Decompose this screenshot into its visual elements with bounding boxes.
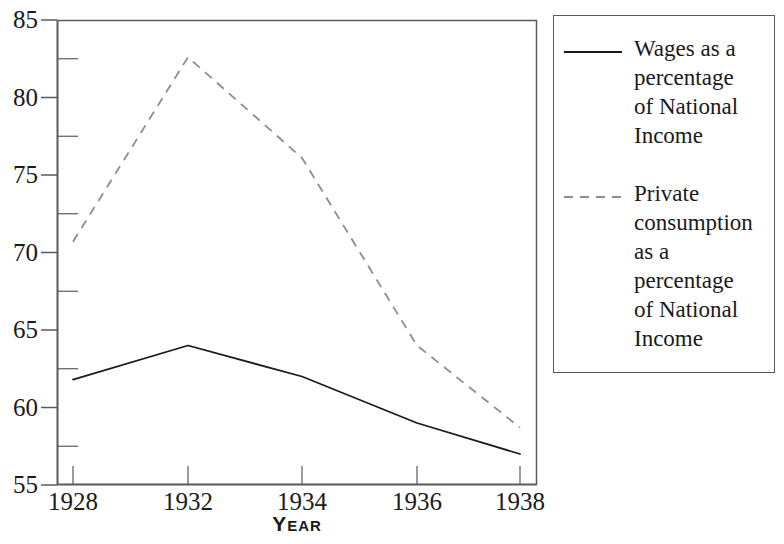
line-chart: 85 80 75 70 65 60 55 1928 1932 1934 1936… [0,0,545,544]
x-tick-label-1932: 1932 [143,489,233,514]
plot-area [0,0,545,500]
x-axis-ticks [73,466,520,485]
legend-item-private-consumption[interactable]: Private consumption as a percentage of N… [554,179,774,353]
x-tick-label-1934: 1934 [257,489,347,514]
y-tick-label-80: 80 [0,85,38,110]
x-tick-label-1936: 1936 [372,489,462,514]
chart-page: 85 80 75 70 65 60 55 1928 1932 1934 1936… [0,0,784,544]
y-axis-major-ticks [41,20,57,485]
y-axis-minor-ticks [57,59,78,447]
chart-legend: Wages as a percentage of National Income… [553,15,775,373]
y-tick-label-70: 70 [0,240,38,265]
legend-label-private-consumption: Private consumption as a percentage of N… [622,179,774,353]
y-tick-label-65: 65 [0,317,38,342]
y-tick-label-60: 60 [0,395,38,420]
series-line-private-consumption [73,57,520,427]
y-tick-label-85: 85 [0,7,38,32]
x-tick-label-1938: 1938 [475,489,565,514]
x-axis-title: Year [57,512,537,536]
legend-item-wages[interactable]: Wages as a percentage of National Income [554,34,774,150]
legend-swatch-solid-line-icon [564,50,622,52]
y-tick-label-75: 75 [0,162,38,187]
series-line-wages [73,346,520,455]
legend-swatch-dashed-line-icon [564,195,622,197]
x-tick-label-1928: 1928 [28,489,118,514]
legend-label-wages: Wages as a percentage of National Income [622,34,774,150]
